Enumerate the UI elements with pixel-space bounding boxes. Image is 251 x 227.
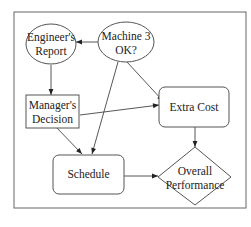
edge-machine3-to-extra-cost (127, 62, 163, 101)
node-label: Machine 3 (102, 30, 151, 42)
edge-managers-decision-to-schedule (56, 127, 82, 154)
node-managers-decision: Manager's Decision (26, 95, 79, 128)
node-schedule: Schedule (53, 155, 124, 194)
node-engineers-report: Engineer's Report (26, 24, 76, 64)
node-overall-performance: Overall Performance (158, 147, 231, 205)
node-label: Overall (178, 165, 212, 177)
node-label: Engineer's (27, 31, 76, 44)
influence-diagram: Engineer's Report Machine 3 OK? Manager'… (0, 0, 251, 227)
node-label: Extra Cost (170, 101, 220, 113)
node-label: Decision (32, 113, 73, 125)
edge-machine3-to-schedule (92, 62, 118, 154)
ellipse-shape (26, 24, 76, 64)
node-label: Schedule (67, 168, 109, 180)
node-machine3-ok: Machine 3 OK? (98, 22, 154, 62)
node-label: Manager's (29, 99, 77, 112)
ellipse-shape (98, 22, 154, 62)
node-label: Report (35, 45, 67, 58)
edge-managers-decision-to-extra-cost (80, 105, 159, 115)
node-extra-cost: Extra Cost (159, 87, 229, 127)
node-label: OK? (115, 44, 137, 56)
node-label: Performance (166, 179, 225, 191)
